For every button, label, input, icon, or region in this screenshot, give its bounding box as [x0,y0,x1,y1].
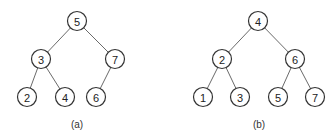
tree-nodes: 5372464261357 [18,12,325,107]
tree-node: 5 [269,88,288,107]
tree-node: 3 [231,88,250,107]
tree-node: 6 [87,88,106,107]
node-label: 6 [93,92,99,104]
tree-node: 4 [249,12,268,31]
diagram-caption: (a) [71,119,83,130]
tree-node: 2 [213,50,232,69]
node-label: 4 [255,16,261,28]
node-label: 5 [74,16,80,28]
diagram-caption: (b) [253,119,265,130]
tree-node: 5 [68,12,87,31]
tree-node: 4 [56,88,75,107]
node-label: 7 [112,54,118,66]
tree-edges [27,21,315,97]
node-label: 3 [237,92,243,104]
tree-node: 7 [306,88,325,107]
node-label: 4 [62,92,68,104]
node-label: 1 [200,92,206,104]
captions: (a)(b) [71,119,265,130]
node-label: 2 [219,54,225,66]
node-label: 6 [292,54,298,66]
node-label: 3 [38,54,44,66]
node-label: 2 [24,92,30,104]
tree-node: 1 [194,88,213,107]
tree-node: 2 [18,88,37,107]
node-label: 5 [275,92,281,104]
tree-node: 3 [32,50,51,69]
tree-node: 7 [106,50,125,69]
node-label: 7 [312,92,318,104]
binary-tree-figure: 5372464261357 (a)(b) [0,0,336,138]
tree-node: 6 [286,50,305,69]
